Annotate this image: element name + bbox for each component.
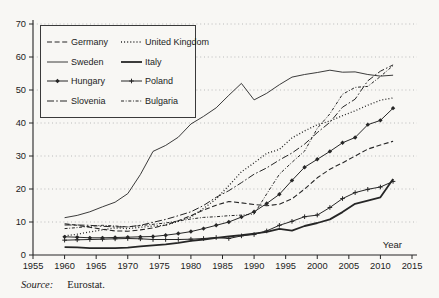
series-line-united-kingdom — [65, 98, 394, 236]
legend-item-germany: Germany — [47, 33, 121, 51]
plus-marker — [365, 187, 370, 192]
plus-marker — [163, 237, 168, 242]
plus-marker — [290, 219, 295, 224]
x-tick-label-2005: 2005 — [338, 261, 359, 271]
legend-swatch-united-kingdom — [121, 37, 142, 47]
legend-label-poland: Poland — [145, 76, 173, 86]
y-tick-label-50: 50 — [16, 85, 26, 95]
x-axis-label: Year — [383, 239, 402, 250]
x-tick-label-1955: 1955 — [23, 261, 44, 271]
plus-marker — [353, 190, 358, 195]
plus-marker — [277, 223, 282, 228]
legend-swatch-italy — [121, 57, 142, 67]
x-tick-label-2000: 2000 — [307, 261, 328, 271]
y-tick-label-30: 30 — [16, 151, 26, 161]
legend-item-hungary: Hungary — [47, 72, 121, 90]
x-tick-label-1980: 1980 — [181, 261, 202, 271]
plus-marker — [129, 79, 134, 84]
y-tick-label-0: 0 — [21, 250, 26, 260]
legend-label-germany: Germany — [71, 37, 108, 47]
diamond-marker — [176, 231, 180, 235]
plus-marker — [315, 213, 320, 218]
figure-page: 0102030405060701955196019651970197519801… — [0, 0, 439, 298]
legend-swatch-slovenia — [47, 96, 68, 106]
legend-item-sweden: Sweden — [47, 53, 121, 71]
legend-label-bulgaria: Bulgaria — [145, 96, 178, 106]
legend-swatch-bulgaria — [121, 96, 142, 106]
legend-label-italy: Italy — [145, 57, 162, 67]
legend-swatch-sweden — [47, 57, 68, 67]
x-tick-label-1990: 1990 — [244, 261, 265, 271]
plus-marker — [302, 214, 307, 219]
plus-marker — [151, 237, 156, 242]
series-hungary — [62, 106, 395, 240]
plus-marker — [75, 238, 80, 243]
x-tick-label-1995: 1995 — [275, 261, 296, 271]
legend-label-united-kingdom: United Kingdom — [145, 37, 209, 47]
diamond-marker — [189, 229, 193, 233]
source-value: Eurostat. — [67, 279, 105, 290]
source-note: Source:Eurostat. — [21, 279, 105, 290]
y-tick-label-40: 40 — [16, 118, 26, 128]
y-tick-label-10: 10 — [16, 217, 26, 227]
diamond-marker — [214, 223, 218, 227]
plus-marker — [176, 237, 181, 242]
diamond-marker — [163, 233, 167, 237]
series-line-hungary — [65, 108, 394, 238]
legend-item-united-kingdom: United Kingdom — [121, 33, 209, 51]
plus-marker — [214, 235, 219, 240]
legend-item-slovenia: Slovenia — [47, 92, 121, 110]
x-tick-label-1985: 1985 — [212, 261, 233, 271]
diamond-marker — [201, 226, 205, 230]
y-tick-label-70: 70 — [16, 19, 26, 29]
legend-swatch-hungary — [47, 76, 68, 86]
legend-box: GermanyUnited KingdomSwedenItalyHungaryP… — [40, 25, 196, 118]
legend-swatch-poland — [121, 76, 142, 86]
x-tick-label-2015: 2015 — [402, 261, 423, 271]
x-tick-label-1975: 1975 — [149, 261, 170, 271]
x-tick-label-1960: 1960 — [54, 261, 75, 271]
diamond-marker — [55, 79, 59, 83]
legend-item-poland: Poland — [121, 72, 209, 90]
plus-marker — [62, 238, 67, 243]
x-tick-label-2010: 2010 — [370, 261, 391, 271]
legend-item-italy: Italy — [121, 53, 209, 71]
legend-label-hungary: Hungary — [71, 76, 105, 86]
legend-label-slovenia: Slovenia — [71, 96, 106, 106]
legend-item-bulgaria: Bulgaria — [121, 92, 209, 110]
diamond-marker — [227, 220, 231, 224]
x-tick-label-1965: 1965 — [86, 261, 107, 271]
x-tick-label-1970: 1970 — [117, 261, 138, 271]
y-tick-label-60: 60 — [16, 52, 26, 62]
y-tick-label-20: 20 — [16, 184, 26, 194]
series-united-kingdom — [65, 98, 394, 236]
legend-label-sweden: Sweden — [71, 57, 104, 67]
source-label: Source: — [21, 279, 53, 290]
legend-swatch-germany — [47, 37, 68, 47]
